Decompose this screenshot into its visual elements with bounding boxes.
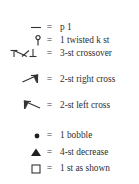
bobble-dot-symbol — [0, 129, 43, 142]
legend-row-label: 3-st crossover — [56, 47, 139, 60]
legend-row-label: p 1 — [56, 21, 139, 34]
legend-row: = 2-st right cross — [0, 73, 139, 86]
purl-dash-symbol — [0, 21, 43, 34]
legend-row: = 1 twisted k st — [0, 34, 139, 47]
legend-row-label: 1 st as shown — [56, 162, 139, 175]
legend-row: = 1 st as shown — [0, 162, 139, 175]
equals-sign: = — [43, 21, 56, 34]
legend-row-label: 2-st right cross — [56, 73, 139, 86]
equals-sign: = — [43, 162, 56, 175]
four-stitch-decrease-triangle-symbol — [0, 146, 43, 159]
two-stitch-left-cross-symbol — [0, 99, 43, 112]
legend-row: = 2-st left cross — [0, 99, 139, 112]
legend-row: = 4-st decrease — [0, 146, 139, 159]
legend-row-label: 2-st left cross — [56, 99, 139, 112]
legend-row: = 1 bobble — [0, 129, 139, 142]
equals-sign: = — [43, 47, 56, 60]
equals-sign: = — [43, 146, 56, 159]
knitting-symbol-legend: = p 1 = 1 twisted k st — [0, 0, 139, 184]
twisted-knit-stitch-symbol — [0, 34, 43, 47]
legend-row-label: 4-st decrease — [56, 146, 139, 159]
three-stitch-crossover-symbol — [0, 47, 43, 60]
legend-row-label: 1 twisted k st — [56, 34, 139, 47]
equals-sign: = — [43, 99, 56, 112]
stitch-as-shown-square-symbol — [0, 162, 43, 175]
legend-row-label: 1 bobble — [56, 129, 139, 142]
equals-sign: = — [43, 73, 56, 86]
equals-sign: = — [43, 34, 56, 47]
legend-row: = 3-st crossover — [0, 47, 139, 60]
equals-sign: = — [43, 129, 56, 142]
two-stitch-right-cross-symbol — [0, 73, 43, 86]
legend-row: = p 1 — [0, 21, 139, 34]
